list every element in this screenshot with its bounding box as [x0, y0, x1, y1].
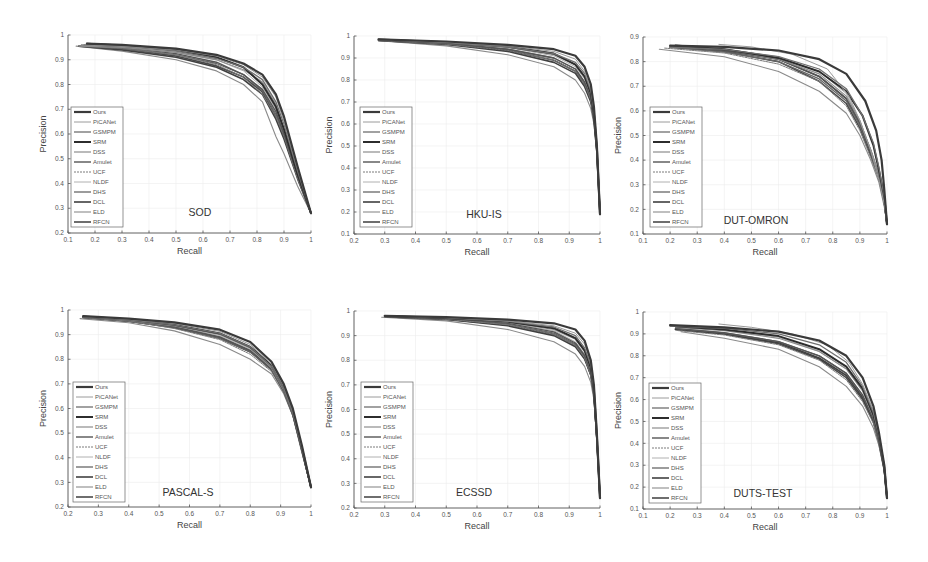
x-tick-label: 0.8: [246, 510, 255, 517]
legend-label: Ours: [95, 384, 108, 390]
legend-label: DHS: [95, 464, 108, 470]
legend-label: RFCN: [672, 219, 689, 225]
y-tick-label: 0.1: [341, 230, 350, 237]
y-tick-label: 0.5: [630, 132, 639, 139]
legend-label: NLDF: [382, 179, 398, 185]
legend-label: DHS: [671, 465, 684, 471]
x-tick-label: 0.4: [411, 237, 420, 244]
legend-label: DCL: [93, 199, 106, 205]
legend-label: ELD: [95, 484, 107, 490]
legend-label: Amulet: [383, 434, 402, 440]
y-tick-label: 0.2: [630, 483, 639, 490]
x-tick-label: 0.8: [534, 237, 543, 244]
pr-curves-svg: 0.10.20.30.40.50.60.70.80.910.20.30.40.5…: [0, 0, 928, 562]
x-tick-label: 0.2: [349, 511, 358, 518]
y-tick-label: 0.6: [341, 120, 350, 127]
curve-nldf: [385, 316, 600, 498]
legend: OursPiCANetGSMPMSRMDSSAmuletUCFNLDFDHSDC…: [649, 383, 701, 503]
curve-amulet: [385, 316, 600, 498]
x-axis-label: Recall: [464, 247, 489, 257]
legend-label: NLDF: [95, 454, 111, 460]
legend: OursPiCANetGSMPMSRMDSSAmuletUCFNLDFDHSDC…: [73, 382, 125, 502]
x-tick-label: 0.9: [855, 237, 864, 244]
legend-label: Ours: [671, 385, 684, 391]
legend-label: Amulet: [95, 434, 114, 440]
y-tick-label: 0.6: [630, 396, 639, 403]
legend-label: ELD: [383, 484, 395, 490]
chart-panel-sod: 0.10.20.30.40.50.60.70.80.910.20.30.40.5…: [38, 31, 313, 256]
x-tick-label: 0.5: [442, 237, 451, 244]
x-tick-label: 0.9: [276, 510, 285, 517]
legend-label: UCF: [382, 169, 395, 175]
x-tick-label: 0.2: [666, 237, 675, 244]
x-tick-label: 1: [309, 236, 313, 243]
y-tick-label: 0.4: [55, 180, 64, 187]
legend-label: ELD: [93, 209, 105, 215]
x-tick-label: 0.5: [171, 236, 180, 243]
curve-dhs: [676, 328, 888, 498]
y-tick-label: 0.5: [630, 418, 639, 425]
legend-label: DSS: [672, 149, 684, 155]
y-tick-label: 1: [346, 32, 350, 39]
legend-label: PiCANet: [672, 119, 695, 125]
legend: OursPiCANetGSMPMSRMDSSAmuletUCFNLDFDHSDC…: [71, 107, 123, 227]
curve-srm: [676, 326, 888, 498]
x-axis-label: Recall: [464, 521, 489, 531]
legend-label: SRM: [383, 414, 396, 420]
y-tick-label: 0.3: [341, 186, 350, 193]
x-tick-label: 0.4: [411, 511, 420, 518]
legend-label: PiCANet: [671, 395, 694, 401]
legend-label: DHS: [383, 464, 396, 470]
y-axis-label: Precision: [613, 392, 623, 429]
legend-label: SRM: [672, 139, 685, 145]
legend-label: Ours: [93, 109, 106, 115]
legend-label: GSMPM: [382, 129, 405, 135]
legend-label: DSS: [95, 424, 107, 430]
legend-label: Amulet: [671, 435, 690, 441]
x-tick-label: 0.6: [198, 236, 207, 243]
y-tick-label: 1: [346, 307, 350, 314]
legend-label: NLDF: [672, 179, 688, 185]
y-tick-label: 0.4: [341, 164, 350, 171]
legend-label: ELD: [382, 209, 394, 215]
legend-label: DSS: [671, 425, 683, 431]
x-tick-label: 0.9: [855, 512, 864, 519]
legend-label: RFCN: [95, 494, 112, 500]
y-axis-label: Precision: [38, 115, 48, 152]
x-tick-label: 0.1: [638, 512, 647, 519]
legend-label: RFCN: [382, 219, 399, 225]
y-tick-label: 0.8: [630, 352, 639, 359]
x-tick-label: 0.3: [693, 512, 702, 519]
y-tick-label: 0.8: [55, 355, 64, 362]
pr-curves: [382, 316, 600, 498]
dataset-title: DUTS-TEST: [734, 487, 794, 499]
y-tick-label: 0.5: [55, 429, 64, 436]
y-tick-label: 0.9: [630, 33, 639, 40]
x-tick-label: 0.5: [747, 237, 756, 244]
y-tick-label: 0.8: [630, 58, 639, 65]
y-axis-label: Precision: [324, 116, 334, 153]
legend-label: Ours: [382, 109, 395, 115]
x-tick-label: 0.7: [503, 511, 512, 518]
y-axis-label: Precision: [324, 391, 334, 428]
x-tick-label: 0.7: [215, 510, 224, 517]
legend-label: GSMPM: [95, 404, 118, 410]
x-tick-label: 0.4: [720, 512, 729, 519]
x-tick-label: 1: [598, 511, 602, 518]
x-axis-label: Recall: [752, 522, 777, 532]
y-tick-label: 0.8: [341, 76, 350, 83]
dataset-title: HKU-IS: [466, 208, 502, 220]
x-tick-label: 1: [598, 237, 602, 244]
legend-label: NLDF: [383, 454, 399, 460]
x-tick-label: 1: [885, 237, 889, 244]
y-tick-label: 0.1: [630, 505, 639, 512]
dataset-title: PASCAL-S: [162, 486, 213, 498]
y-tick-label: 1: [635, 308, 639, 315]
legend-label: RFCN: [383, 494, 400, 500]
y-tick-label: 0.2: [55, 503, 64, 510]
y-tick-label: 0.4: [55, 454, 64, 461]
x-tick-label: 0.4: [720, 237, 729, 244]
legend-label: DSS: [382, 149, 394, 155]
curve-eld: [681, 332, 887, 498]
chart-panel-dut-omron: 0.10.20.30.40.50.60.70.80.910.10.20.30.4…: [613, 33, 889, 257]
